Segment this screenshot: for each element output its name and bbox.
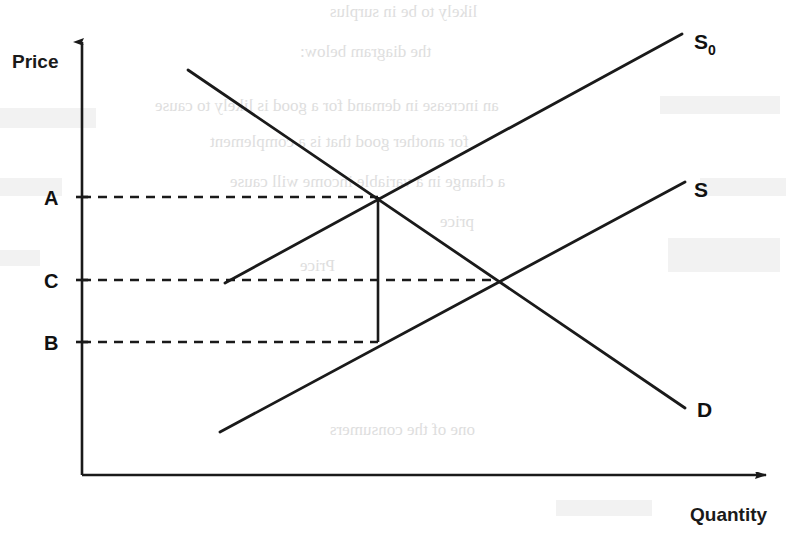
axes-group: Price Quantity	[12, 42, 767, 525]
price-level-guides: A C B	[44, 187, 497, 354]
y-axis-label: Price	[12, 51, 58, 72]
supply-shifted-curve	[225, 34, 682, 283]
curves-group	[188, 34, 685, 432]
x-axis-label: Quantity	[690, 504, 767, 525]
supply-curve	[220, 182, 685, 432]
price-label-a: A	[44, 187, 58, 209]
demand-label: D	[697, 398, 712, 421]
price-label-b: B	[44, 332, 58, 354]
supply-demand-chart: Price Quantity A C B S 0	[0, 0, 795, 537]
supply-shifted-label: S	[694, 30, 708, 53]
supply-shifted-label-subscript: 0	[708, 42, 716, 58]
diagram-page: likely to be in surplusthe diagram below…	[0, 0, 795, 537]
demand-curve	[188, 70, 685, 408]
price-label-c: C	[44, 270, 58, 292]
supply-label: S	[694, 178, 708, 201]
curve-labels-group: S 0 S D	[694, 30, 716, 421]
